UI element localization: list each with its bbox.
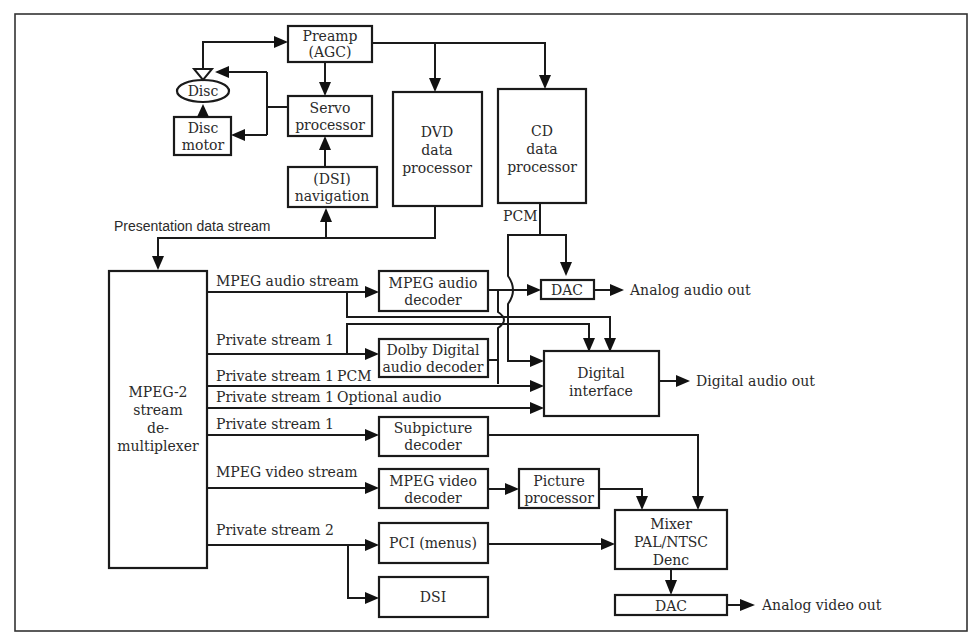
mpeg-video-decoder-block: MPEG video decoder: [379, 469, 488, 508]
svg-text:DAC: DAC: [655, 598, 687, 614]
svg-text:PCI (menus): PCI (menus): [389, 535, 477, 551]
svg-text:Optional audio: Optional audio: [337, 389, 442, 405]
svg-text:Private stream 1: Private stream 1: [216, 368, 334, 384]
svg-text:Analog audio out: Analog audio out: [629, 282, 751, 298]
servo-processor-block: Servo processor: [288, 96, 372, 136]
svg-text:Denc: Denc: [653, 552, 690, 568]
svg-text:decoder: decoder: [404, 437, 462, 453]
pickup-icon: [194, 69, 212, 80]
svg-text:MPEG-2: MPEG-2: [128, 384, 187, 400]
digital-interface-block: Digital interface: [544, 351, 659, 416]
svg-text:processor: processor: [507, 159, 577, 175]
dvd-player-block-diagram: Preamp (AGC) Disc Disc motor Servo proce…: [0, 0, 979, 643]
svg-text:data: data: [421, 142, 452, 158]
svg-text:CD: CD: [531, 123, 553, 139]
svg-text:Disc: Disc: [188, 120, 219, 136]
svg-text:MPEG video: MPEG video: [389, 473, 477, 489]
svg-text:Private stream 1: Private stream 1: [216, 416, 334, 432]
svg-text:(AGC): (AGC): [309, 44, 352, 60]
svg-text:motor: motor: [182, 137, 225, 153]
svg-text:stream: stream: [133, 402, 182, 418]
audio-dac-block: DAC: [541, 280, 594, 299]
svg-text:navigation: navigation: [295, 188, 370, 204]
svg-text:MPEG audio stream: MPEG audio stream: [216, 273, 359, 289]
svg-text:DAC: DAC: [551, 282, 583, 298]
svg-text:data: data: [526, 141, 557, 157]
svg-text:Private stream 1: Private stream 1: [216, 389, 334, 405]
svg-text:Digital audio out: Digital audio out: [696, 373, 815, 389]
subpicture-decoder-block: Subpicture decoder: [379, 417, 488, 456]
svg-text:decoder: decoder: [404, 490, 462, 506]
svg-text:DVD: DVD: [421, 124, 453, 140]
cd-data-processor-block: CD data processor: [498, 89, 586, 203]
svg-text:multiplexer: multiplexer: [117, 438, 199, 454]
svg-text:Presentation data stream: Presentation data stream: [114, 218, 270, 234]
svg-text:PCM: PCM: [337, 368, 371, 384]
dsi-navigation-block: (DSI) navigation: [288, 167, 377, 207]
svg-text:processor: processor: [402, 160, 472, 176]
disc-motor-block: Disc motor: [174, 117, 231, 155]
svg-text:processor: processor: [524, 490, 594, 506]
svg-text:DSI: DSI: [420, 589, 446, 605]
disc-block: Disc: [177, 80, 229, 102]
svg-text:Subpicture: Subpicture: [394, 420, 472, 436]
svg-text:MPEG video stream: MPEG video stream: [216, 464, 358, 480]
picture-processor-block: Picture processor: [519, 469, 599, 508]
arrow-up-icon: [197, 104, 209, 117]
svg-text:Private stream 1: Private stream 1: [216, 332, 334, 348]
svg-text:Preamp: Preamp: [303, 28, 358, 44]
svg-text:Dolby Digital: Dolby Digital: [386, 342, 480, 358]
svg-text:PAL/NTSC: PAL/NTSC: [634, 534, 708, 550]
preamp-block: Preamp (AGC): [288, 26, 372, 62]
svg-text:Disc: Disc: [188, 83, 219, 99]
svg-text:PCM: PCM: [503, 208, 537, 224]
svg-text:Private stream 2: Private stream 2: [216, 522, 334, 538]
svg-text:MPEG audio: MPEG audio: [389, 275, 478, 291]
svg-text:de-: de-: [147, 420, 169, 436]
svg-text:Mixer: Mixer: [650, 516, 692, 532]
mpeg-audio-decoder-block: MPEG audio decoder: [379, 271, 488, 311]
dolby-digital-decoder-block: Dolby Digital audio decoder: [379, 339, 488, 377]
svg-text:Servo: Servo: [310, 100, 351, 116]
svg-text:Digital: Digital: [577, 365, 625, 381]
mpeg2-demultiplexer-block: MPEG-2 stream de- multiplexer: [109, 271, 207, 568]
dvd-data-processor-block: DVD data processor: [393, 92, 482, 206]
dsi-block: DSI: [379, 577, 488, 617]
svg-text:Picture: Picture: [533, 473, 584, 489]
svg-text:Analog video out: Analog video out: [761, 597, 882, 613]
pci-menus-block: PCI (menus): [379, 523, 488, 563]
svg-text:(DSI): (DSI): [313, 171, 350, 187]
video-dac-block: DAC: [615, 595, 727, 615]
svg-text:processor: processor: [295, 117, 365, 133]
svg-text:interface: interface: [569, 383, 633, 399]
mixer-denc-block: Mixer PAL/NTSC Denc: [615, 510, 727, 569]
svg-text:decoder: decoder: [404, 292, 462, 308]
svg-text:audio decoder: audio decoder: [382, 359, 483, 375]
